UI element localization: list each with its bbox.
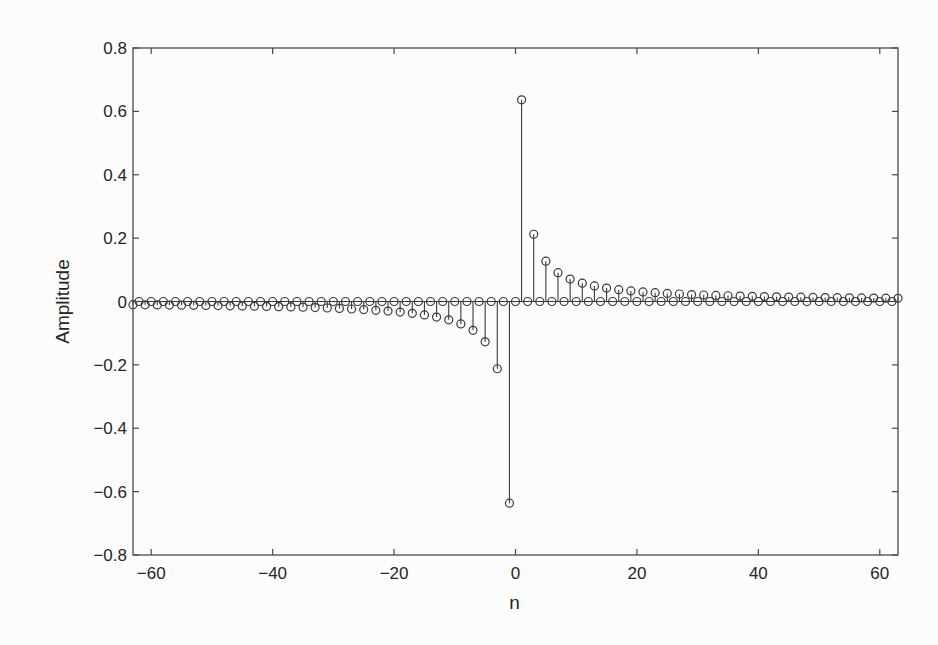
x-axis-label: n: [509, 592, 520, 613]
y-tick-label: 0.6: [103, 102, 127, 121]
x-tick-label: 20: [627, 564, 646, 583]
y-tick-label: −0.4: [93, 419, 127, 438]
stem-plot: −60−40−200204060 0.80.60.40.20−0.2−0.4−0…: [0, 0, 938, 645]
y-tick-label: 0: [118, 293, 127, 312]
x-tick-label: −20: [380, 564, 409, 583]
y-tick-label: 0.2: [103, 229, 127, 248]
y-tick-label: 0.4: [103, 166, 127, 185]
x-tick-label: 0: [511, 564, 520, 583]
y-axis-label: Amplitude: [52, 259, 73, 344]
x-tick-label: −40: [258, 564, 287, 583]
y-tick-label: 0.8: [103, 39, 127, 58]
x-tick-label: 60: [870, 564, 889, 583]
y-tick-label: −0.8: [93, 546, 127, 565]
x-tick-label: 40: [749, 564, 768, 583]
y-tick-label: −0.2: [93, 356, 127, 375]
y-tick-label: −0.6: [93, 483, 127, 502]
x-tick-label: −60: [137, 564, 166, 583]
